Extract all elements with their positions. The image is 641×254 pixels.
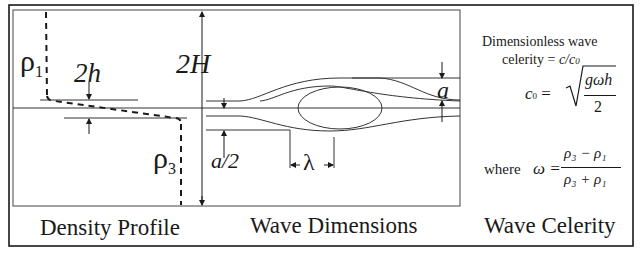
- rho-upper-label: ρ1: [20, 46, 43, 80]
- omega-lhs: ω =: [533, 160, 561, 177]
- where-label: where: [484, 162, 521, 177]
- layer-thickness-label: 2h: [74, 60, 101, 87]
- wave-celerity-caption: Wave Celerity: [484, 214, 616, 237]
- c0-numerator: gωh: [585, 72, 612, 88]
- omega-fraction-bar: [561, 167, 621, 168]
- omega-denominator: ρ₃ + ρ₁: [564, 172, 606, 187]
- omega-numerator: ρ₃ − ρ₁: [564, 146, 606, 161]
- depth-label: 2H: [176, 50, 210, 78]
- rho-lower-label: ρ3: [153, 143, 176, 177]
- wave-dimensions-caption: Wave Dimensions: [250, 214, 417, 237]
- celerity-description-line2: celerity = c/c0: [502, 53, 580, 67]
- c0-fraction-bar: [584, 95, 616, 96]
- half-amplitude-label: a/2: [211, 150, 239, 172]
- wavelength-label: λ: [303, 150, 315, 174]
- amplitude-label: a: [437, 78, 449, 102]
- c0-denominator: 2: [594, 99, 602, 115]
- c0-lhs: c0 =: [525, 85, 551, 102]
- celerity-description-line1: Dimensionless wave: [482, 35, 597, 49]
- density-profile-caption: Density Profile: [40, 216, 180, 239]
